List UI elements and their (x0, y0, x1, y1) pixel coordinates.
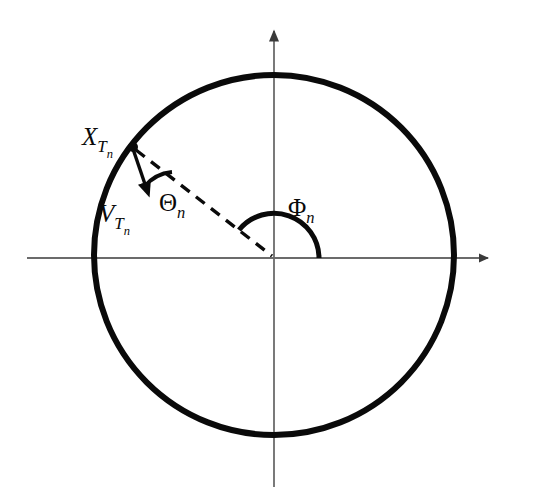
position-vector-label: XTn (81, 123, 113, 161)
theta-angle-arc (144, 172, 172, 187)
radius-dashed-line (136, 150, 272, 256)
geometry-figure: XTn VTn Θn Φn (0, 0, 534, 500)
labels-group: XTn VTn Θn Φn (81, 123, 315, 238)
velocity-vector-label: VTn (99, 200, 130, 238)
circle-diagram-canvas: XTn VTn Θn Φn (0, 0, 534, 500)
theta-angle-label: Θn (159, 189, 185, 222)
